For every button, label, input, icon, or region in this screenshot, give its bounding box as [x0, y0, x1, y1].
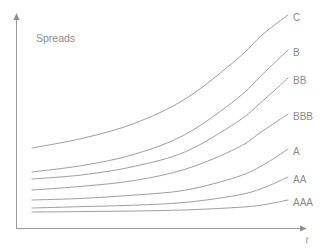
- spread-curve-bb: [32, 78, 288, 179]
- y-axis-arrowhead: [13, 13, 19, 20]
- curve-label-bbb: BBB: [293, 111, 313, 122]
- spread-curve-b: [32, 50, 288, 172]
- spread-curves-group: [32, 15, 288, 212]
- plot-title: Spreads: [36, 32, 75, 44]
- curve-label-aaa: AAA: [293, 197, 313, 208]
- chart-canvas: CBBBBBBAAAAAA Spreads t: [0, 0, 328, 252]
- curve-label-c: C: [293, 12, 300, 23]
- spread-curve-bbb: [32, 114, 288, 190]
- curve-label-bb: BB: [293, 75, 307, 86]
- curve-label-a: A: [293, 146, 300, 157]
- spreads-chart-figure: CBBBBBBAAAAAA Spreads t: [0, 0, 328, 252]
- x-axis-arrowhead: [300, 225, 307, 231]
- curve-label-b: B: [293, 47, 300, 58]
- curve-label-aa: AA: [293, 174, 307, 185]
- spread-curve-aa: [32, 177, 288, 208]
- curve-labels-group: CBBBBBBAAAAAA: [293, 12, 313, 208]
- spread-curve-aaa: [32, 200, 288, 212]
- x-axis-label: t: [306, 234, 309, 245]
